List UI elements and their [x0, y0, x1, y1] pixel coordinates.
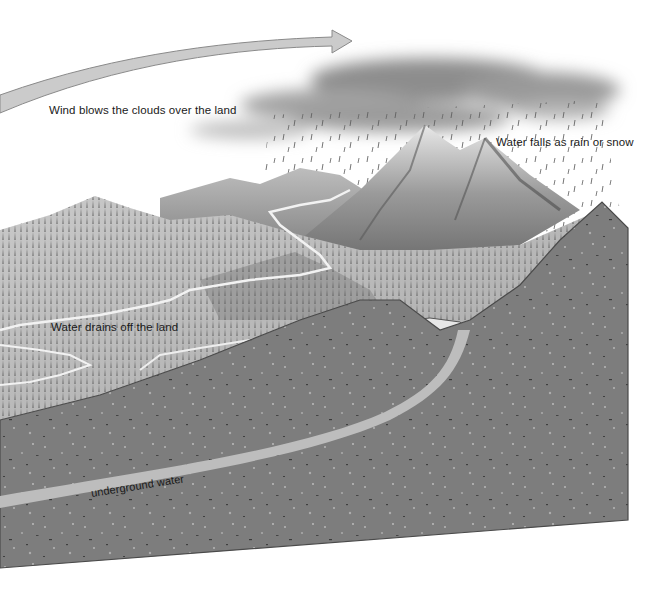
water-cycle-illustration — [0, 0, 670, 597]
wind-label: Wind blows the clouds over the land — [49, 104, 237, 116]
runoff-label: Water drains off the land — [51, 321, 178, 333]
precipitation-label: Water falls as rain or snow — [496, 136, 634, 148]
